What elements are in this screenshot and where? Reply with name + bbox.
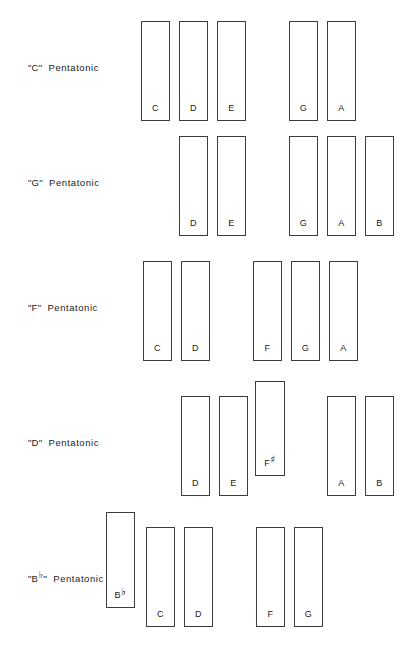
note-letter: B: [376, 478, 382, 488]
piano-key-d[interactable]: D: [181, 396, 210, 496]
piano-key-label: B: [366, 219, 393, 228]
piano-key-d[interactable]: D: [181, 261, 210, 361]
piano-key-e[interactable]: E: [217, 21, 246, 121]
note-letter: C: [152, 103, 159, 113]
note-letter: G: [302, 343, 309, 353]
piano-key-bflat[interactable]: B♭: [106, 512, 135, 608]
piano-key-label: C: [144, 344, 171, 353]
piano-key-label: A: [330, 344, 357, 353]
note-letter: A: [338, 478, 344, 488]
scale-row-label: "D" Pentatonic: [0, 437, 130, 448]
note-letter: G: [300, 103, 307, 113]
note-letter: B: [376, 218, 382, 228]
note-letter: D: [190, 218, 197, 228]
piano-key-g[interactable]: G: [289, 21, 318, 121]
piano-key-label: A: [328, 479, 355, 488]
note-letter: E: [228, 218, 234, 228]
piano-key-fsharp[interactable]: F♯: [255, 381, 285, 476]
note-letter: G: [305, 609, 312, 619]
note-letter: A: [340, 343, 346, 353]
scale-type-label: Pentatonic: [42, 62, 99, 73]
piano-key-d[interactable]: D: [179, 21, 208, 121]
note-letter: D: [190, 103, 197, 113]
piano-key-label: B: [366, 479, 393, 488]
scale-type-label: Pentatonic: [43, 177, 100, 188]
scale-root-name: C: [31, 62, 38, 73]
note-letter: G: [300, 218, 307, 228]
piano-key-g[interactable]: G: [294, 527, 323, 627]
scale-row-label: "G" Pentatonic: [0, 177, 130, 188]
piano-key-label: A: [328, 219, 355, 228]
piano-key-label: C: [147, 610, 174, 619]
piano-key-a[interactable]: A: [327, 136, 356, 236]
scale-row-label: "C" Pentatonic: [0, 62, 130, 73]
piano-key-b[interactable]: B: [365, 136, 394, 236]
piano-key-label: D: [180, 219, 207, 228]
pentatonic-scales-chart: "C" PentatonicCDEGA"G" PentatonicDEGAB"F…: [0, 0, 418, 650]
note-letter: A: [338, 218, 344, 228]
note-letter: D: [192, 343, 199, 353]
scale-type-label: Pentatonic: [41, 302, 98, 313]
piano-key-label: G: [292, 344, 319, 353]
note-letter: F: [268, 609, 274, 619]
piano-key-label: F♯: [256, 458, 284, 468]
piano-key-g[interactable]: G: [291, 261, 320, 361]
piano-key-g[interactable]: G: [289, 136, 318, 236]
piano-key-label: C: [142, 104, 169, 113]
piano-key-a[interactable]: A: [329, 261, 358, 361]
flat-icon: ♭: [121, 585, 126, 597]
note-letter: E: [230, 478, 236, 488]
piano-key-label: F: [257, 610, 284, 619]
piano-key-label: G: [295, 610, 322, 619]
piano-key-c[interactable]: C: [141, 21, 170, 121]
note-letter: A: [338, 103, 344, 113]
piano-key-label: A: [328, 104, 355, 113]
piano-key-d[interactable]: D: [184, 527, 213, 627]
piano-key-label: G: [290, 104, 317, 113]
note-letter: C: [154, 343, 161, 353]
scale-root-name: D: [31, 437, 38, 448]
piano-key-label: E: [218, 104, 245, 113]
note-letter: F: [265, 343, 271, 353]
note-letter: D: [192, 478, 199, 488]
piano-key-e[interactable]: E: [219, 396, 248, 496]
note-letter: C: [157, 609, 164, 619]
piano-key-label: D: [182, 344, 209, 353]
piano-key-e[interactable]: E: [217, 136, 246, 236]
piano-key-f[interactable]: F: [256, 527, 285, 627]
scale-row-label: "F" Pentatonic: [0, 302, 130, 313]
note-letter: E: [228, 103, 234, 113]
piano-key-label: E: [220, 479, 247, 488]
piano-key-d[interactable]: D: [179, 136, 208, 236]
scale-type-label: Pentatonic: [47, 573, 104, 584]
note-letter: D: [195, 609, 202, 619]
piano-key-label: F: [254, 344, 281, 353]
piano-key-label: G: [290, 219, 317, 228]
piano-key-b[interactable]: B: [365, 396, 394, 496]
piano-key-c[interactable]: C: [146, 527, 175, 627]
piano-key-a[interactable]: A: [327, 396, 356, 496]
piano-key-a[interactable]: A: [327, 21, 356, 121]
piano-key-label: D: [182, 479, 209, 488]
sharp-icon: ♯: [270, 453, 275, 465]
piano-key-label: B♭: [107, 590, 134, 600]
scale-type-label: Pentatonic: [42, 437, 99, 448]
piano-key-c[interactable]: C: [143, 261, 172, 361]
piano-key-f[interactable]: F: [253, 261, 282, 361]
piano-key-label: D: [180, 104, 207, 113]
piano-key-label: E: [218, 219, 245, 228]
piano-key-label: D: [185, 610, 212, 619]
